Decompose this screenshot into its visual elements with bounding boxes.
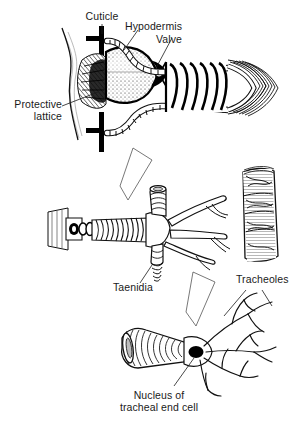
label-valve: Valve <box>156 33 216 45</box>
protective-lattice <box>78 54 107 109</box>
zoom-connector-bottom <box>186 272 215 326</box>
branch-upward <box>150 186 166 216</box>
spiracle-detail <box>69 223 94 236</box>
label-tracheoles: Tracheoles <box>236 273 304 285</box>
tracheole-trunk <box>121 328 190 368</box>
main-trachea <box>92 218 148 242</box>
leader-tracheoles <box>224 290 272 316</box>
label-protective-lattice-line1: Protective <box>0 98 62 110</box>
fine-taenidia-tip <box>152 263 162 281</box>
label-nucleus-line2: tracheal end cell <box>104 401 214 413</box>
branches-rightward <box>164 196 227 264</box>
label-nucleus-line1: Nucleus of <box>104 389 214 401</box>
nucleus <box>189 346 204 358</box>
zoom-connector-top <box>120 148 152 200</box>
label-protective-lattice-line2: lattice <box>0 110 62 122</box>
body-wall-segment <box>48 208 94 250</box>
tracheal-system-illustration <box>0 0 304 423</box>
figure-page: Cuticle Hypodermis Valve Protective latt… <box>0 0 304 423</box>
label-taenidia: Taenidia <box>113 281 183 293</box>
branch-downward <box>151 244 163 281</box>
panel-branching-trachea <box>48 165 284 283</box>
label-hypodermis: Hypodermis <box>125 20 215 32</box>
trachea-wall-cut-edge <box>228 60 278 116</box>
muscle-fiber <box>240 165 284 265</box>
trachea-cutaway <box>166 62 226 112</box>
tracheole-branches <box>200 293 276 396</box>
